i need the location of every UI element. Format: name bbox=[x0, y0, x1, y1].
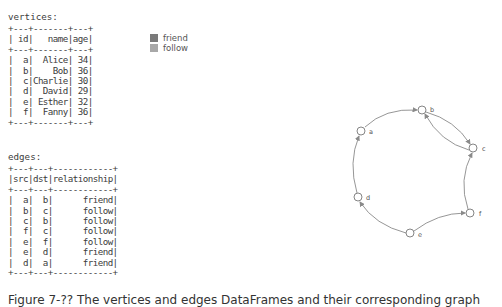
edge-d-a bbox=[353, 136, 359, 193]
node-label-b: b bbox=[430, 106, 434, 114]
node-label-f: f bbox=[479, 210, 482, 218]
edge-c-b bbox=[425, 114, 469, 150]
node-c-icon bbox=[469, 144, 477, 152]
graph-nodes bbox=[354, 106, 477, 237]
node-label-e: e bbox=[418, 231, 422, 239]
node-label-d: d bbox=[366, 194, 370, 202]
node-labels: a b c d e f bbox=[366, 106, 486, 239]
node-e-icon bbox=[406, 229, 414, 237]
node-label-c: c bbox=[482, 145, 486, 153]
edge-f-c bbox=[464, 153, 472, 209]
node-b-icon bbox=[418, 106, 426, 114]
edge-e-d bbox=[360, 202, 406, 233]
figure-caption: Figure 7-?? The vertices and edges DataF… bbox=[8, 293, 480, 307]
node-label-a: a bbox=[369, 128, 373, 136]
edge-b-c bbox=[426, 112, 470, 144]
edge-a-b bbox=[365, 110, 417, 127]
edge-e-f bbox=[414, 213, 465, 231]
node-d-icon bbox=[354, 193, 362, 201]
node-a-icon bbox=[357, 127, 365, 135]
node-f-icon bbox=[466, 209, 474, 217]
